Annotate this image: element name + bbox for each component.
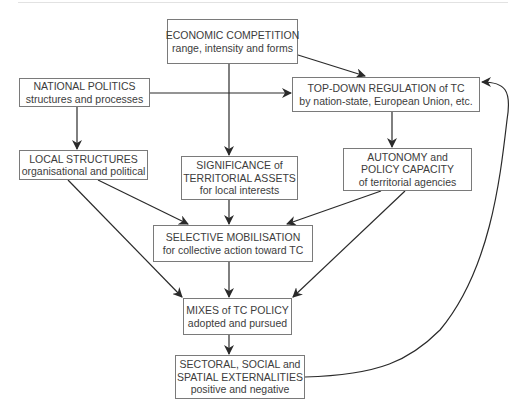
node-subtitle: structures and processes bbox=[26, 93, 143, 106]
node-top-down-regulation: TOP-DOWN REGULATION of TC by nation-stat… bbox=[292, 77, 480, 112]
node-subtitle: adopted and pursued bbox=[188, 317, 287, 330]
node-subtitle: for local interests bbox=[200, 184, 279, 197]
edge-economic-topdown bbox=[298, 55, 365, 76]
node-title: LOCAL STRUCTURES bbox=[29, 153, 138, 166]
node-title: ECONOMIC COMPETITION bbox=[166, 29, 300, 42]
node-autonomy-policy-capacity: AUTONOMY and POLICY CAPACITY of territor… bbox=[343, 148, 472, 191]
node-title: AUTONOMY and bbox=[367, 151, 448, 164]
node-title: TOP-DOWN REGULATION of TC bbox=[308, 82, 465, 95]
node-subtitle: organisational and political bbox=[22, 165, 146, 178]
node-national-politics: NATIONAL POLITICS structures and process… bbox=[19, 78, 150, 107]
node-subtitle: by nation-state, European Union, etc. bbox=[299, 95, 472, 108]
node-title: SECTORAL, SOCIAL and bbox=[180, 358, 301, 371]
node-subtitle: positive and negative bbox=[191, 383, 290, 396]
node-mixes-tc-policy: MIXES of TC POLICY adopted and pursued bbox=[183, 298, 292, 335]
node-title-2: SPATIAL EXTERNALITIES bbox=[177, 371, 303, 384]
node-subtitle: of territorial agencies bbox=[359, 176, 456, 189]
edge-autonomy-selective bbox=[287, 191, 381, 224]
node-title-2: POLICY CAPACITY bbox=[361, 163, 454, 176]
node-title-2: TERRITORIAL ASSETS bbox=[183, 172, 296, 185]
edge-sectoral-topdown-feedback bbox=[305, 82, 509, 377]
node-subtitle: range, intensity and forms bbox=[172, 42, 293, 55]
node-title: NATIONAL POLITICS bbox=[33, 80, 135, 93]
node-subtitle: for collective action toward TC bbox=[163, 244, 303, 257]
node-economic-competition: ECONOMIC COMPETITION range, intensity an… bbox=[167, 19, 298, 64]
node-local-structures: LOCAL STRUCTURES organisational and poli… bbox=[19, 150, 148, 180]
edge-local-selective bbox=[98, 180, 188, 224]
node-selective-mobilisation: SELECTIVE MOBILISATION for collective ac… bbox=[153, 225, 313, 262]
node-title: MIXES of TC POLICY bbox=[186, 304, 289, 317]
node-sectoral-externalities: SECTORAL, SOCIAL and SPATIAL EXTERNALITI… bbox=[175, 355, 305, 399]
node-title: SELECTIVE MOBILISATION bbox=[166, 231, 301, 244]
node-title: SIGNIFICANCE of bbox=[196, 159, 282, 172]
node-significance-territorial-assets: SIGNIFICANCE of TERRITORIAL ASSETS for l… bbox=[181, 156, 298, 200]
